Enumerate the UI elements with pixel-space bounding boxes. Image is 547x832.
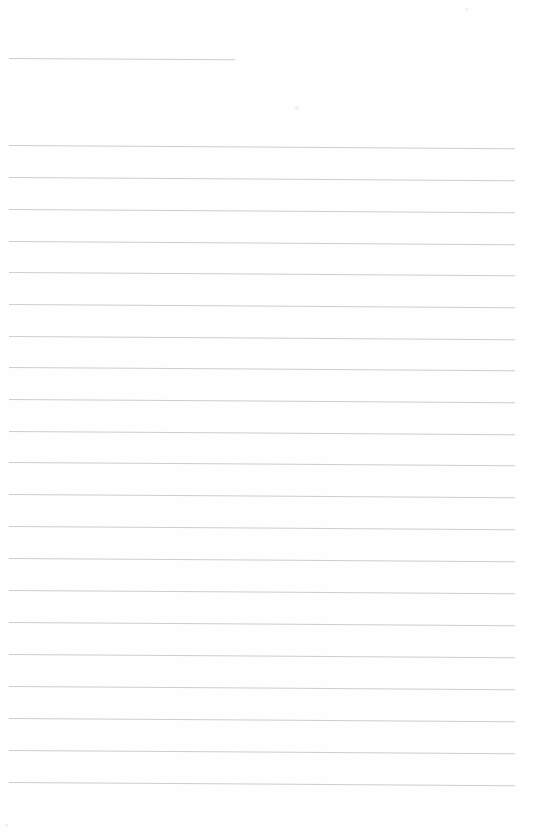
ruled-line [9, 526, 515, 530]
ruled-line [9, 367, 515, 371]
ruled-line [9, 209, 515, 213]
ruled-line [9, 750, 515, 754]
ruled-line [9, 177, 515, 181]
ruled-line [9, 304, 515, 308]
ruled-line [9, 241, 515, 245]
ruled-line [9, 686, 515, 690]
ruled-line [9, 399, 515, 403]
scan-speck [5, 824, 8, 827]
ruled-line [9, 336, 515, 340]
ruled-line [9, 58, 235, 60]
ruled-line [9, 622, 515, 626]
ruled-line [9, 782, 515, 786]
ruled-line [9, 590, 515, 594]
ruled-line [9, 654, 515, 658]
ruled-line [9, 718, 515, 722]
ruled-lines-layer [0, 0, 547, 832]
scan-speck [465, 8, 468, 11]
ruled-line [9, 494, 515, 498]
ruled-line [9, 145, 515, 149]
ruled-line [9, 272, 515, 276]
scan-speck [295, 106, 299, 110]
ruled-line [9, 558, 515, 562]
ruled-line [9, 431, 515, 435]
ruled-line [9, 462, 515, 466]
scanned-page [0, 0, 547, 832]
